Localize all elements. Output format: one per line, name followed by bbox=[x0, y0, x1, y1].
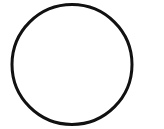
drawing-canvas bbox=[0, 0, 164, 129]
circle-drawing bbox=[0, 0, 164, 129]
canvas-background bbox=[0, 0, 164, 129]
